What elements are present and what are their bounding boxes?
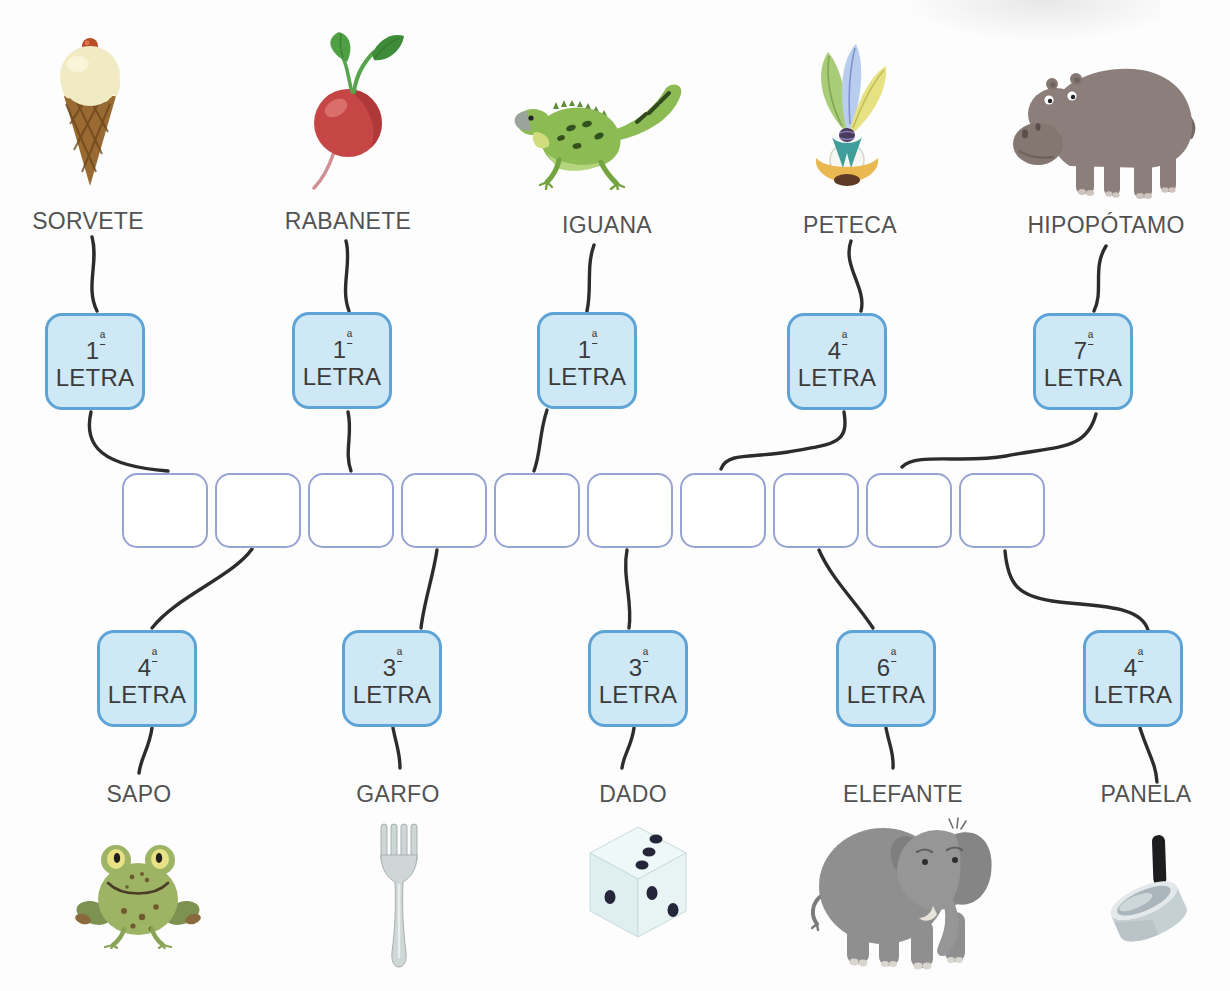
ordinal: 4ª xyxy=(1124,649,1143,681)
letra-label: LETRA xyxy=(303,363,381,391)
scan-smudge xyxy=(900,0,1160,42)
answer-box-7[interactable] xyxy=(680,473,766,548)
ordinal: 3ª xyxy=(383,649,402,681)
connector-garfo-box-to-word xyxy=(393,728,400,768)
letra-label: LETRA xyxy=(1044,364,1122,392)
letra-label: LETRA xyxy=(1094,681,1172,709)
ordinal: 4ª xyxy=(138,649,157,681)
letter-pick-box-iguana: 1ª LETRA xyxy=(537,312,637,409)
shuttlecock-icon xyxy=(798,40,898,195)
answer-box-3[interactable] xyxy=(308,473,394,548)
connector-rabanete-word-to-box xyxy=(346,241,349,311)
connector-sapo-box-to-word xyxy=(139,728,152,773)
answer-box-4[interactable] xyxy=(401,473,487,548)
saucepan-icon xyxy=(1087,828,1205,950)
ordinal: 1ª xyxy=(86,332,105,364)
letter-pick-box-sorvete: 1ª LETRA xyxy=(45,313,145,410)
answer-box-10[interactable] xyxy=(959,473,1045,548)
answer-box-5[interactable] xyxy=(494,473,580,548)
radish-icon xyxy=(298,30,406,192)
letra-label: LETRA xyxy=(798,364,876,392)
dice-icon xyxy=(580,823,696,943)
connector-hipopotamo-word-to-box xyxy=(1094,246,1106,311)
letter-pick-box-rabanete: 1ª LETRA xyxy=(292,312,392,409)
connector-peteca-word-to-box xyxy=(849,241,862,311)
word-label-sorvete: SORVETE xyxy=(32,208,144,235)
connector-answer-4-to-garfo-box xyxy=(421,550,437,628)
letter-pick-box-elefante: 6ª LETRA xyxy=(836,630,936,727)
connector-panela-box-to-word xyxy=(1140,728,1157,782)
letter-pick-box-sapo: 4ª LETRA xyxy=(97,630,197,727)
connector-sorvete-box-to-answer-1 xyxy=(89,412,168,471)
letra-label: LETRA xyxy=(56,364,134,392)
letra-label: LETRA xyxy=(548,363,626,391)
letter-pick-box-dado: 3ª LETRA xyxy=(588,630,688,727)
word-label-sapo: SAPO xyxy=(106,781,171,808)
answer-box-2[interactable] xyxy=(215,473,301,548)
letter-pick-box-panela: 4ª LETRA xyxy=(1083,630,1183,727)
connector-dado-box-to-word xyxy=(622,728,634,768)
hippopotamus-icon xyxy=(1012,54,1198,204)
elephant-icon xyxy=(805,812,995,975)
frog-icon xyxy=(72,833,204,949)
connector-sorvete-word-to-box xyxy=(92,237,97,311)
letra-label: LETRA xyxy=(353,681,431,709)
word-label-hipopotamo: HIPOPÓTAMO xyxy=(1027,212,1184,239)
answer-box-8[interactable] xyxy=(773,473,859,548)
connector-iguana-box-to-answer-5 xyxy=(534,410,547,471)
word-label-elefante: ELEFANTE xyxy=(843,781,963,808)
ordinal: 7ª xyxy=(1074,332,1093,364)
connector-answer-6-to-dado-box xyxy=(626,550,630,628)
fork-icon xyxy=(376,822,424,969)
word-label-panela: PANELA xyxy=(1101,781,1192,808)
connector-rabanete-box-to-answer-3 xyxy=(348,412,351,471)
word-label-iguana: IGUANA xyxy=(562,212,652,239)
answer-box-9[interactable] xyxy=(866,473,952,548)
connector-answer-8-to-elefante-box xyxy=(819,550,873,628)
word-label-peteca: PETECA xyxy=(803,212,897,239)
letra-label: LETRA xyxy=(599,681,677,709)
ice-cream-icon xyxy=(44,34,132,192)
ordinal: 3ª xyxy=(629,649,648,681)
ordinal: 4ª xyxy=(828,332,847,364)
connector-peteca-box-to-answer-7 xyxy=(721,412,845,469)
letter-pick-box-garfo: 3ª LETRA xyxy=(342,630,442,727)
connector-hipopotamo-box-to-answer-9 xyxy=(902,414,1096,467)
letra-label: LETRA xyxy=(108,681,186,709)
letra-label: LETRA xyxy=(847,681,925,709)
ordinal: 6ª xyxy=(877,649,896,681)
letter-pick-box-peteca: 4ª LETRA xyxy=(787,313,887,410)
word-label-garfo: GARFO xyxy=(356,781,439,808)
connector-iguana-word-to-box xyxy=(587,245,594,311)
worksheet-page: SORVETE RABANETE IGUANA PETECA HIPOPÓTAM… xyxy=(0,0,1230,991)
connector-answer-10-to-panela-box xyxy=(1005,551,1148,630)
connector-answer-2-to-sapo-box xyxy=(152,549,252,628)
ordinal: 1ª xyxy=(333,331,352,363)
word-label-rabanete: RABANETE xyxy=(285,208,411,235)
ordinal: 1ª xyxy=(578,331,597,363)
letter-pick-box-hipopotamo: 7ª LETRA xyxy=(1033,313,1133,410)
iguana-icon xyxy=(513,72,689,190)
answer-box-1[interactable] xyxy=(122,473,208,548)
answer-box-6[interactable] xyxy=(587,473,673,548)
word-label-dado: DADO xyxy=(599,781,667,808)
connector-elefante-box-to-word xyxy=(886,728,893,768)
